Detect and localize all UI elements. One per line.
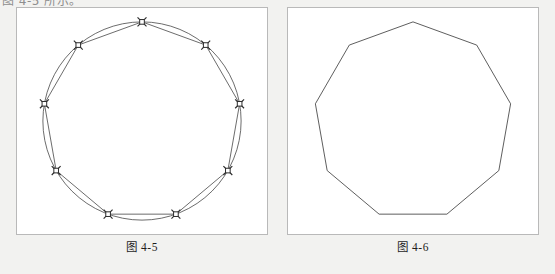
clipped-top-text: 图 4-5 所示。 <box>2 0 82 7</box>
figure-caption-4-6: 图 4-6 <box>397 242 429 254</box>
nonagon-group <box>315 22 510 214</box>
vertex-marker-icon <box>223 166 232 175</box>
figure-block-4-5: 图 4-5 <box>8 7 276 254</box>
vertex-marker-icon <box>52 166 61 175</box>
figure-block-4-6: 图 4-6 <box>279 7 547 254</box>
figure-caption-4-5: 图 4-5 <box>126 242 158 254</box>
figure-panel-4-6 <box>287 7 539 235</box>
vertex-marker-icon <box>201 41 210 50</box>
vertex-marker-icon <box>235 99 244 108</box>
figure-4-5-drawing <box>17 8 267 234</box>
vertex-marker-icon <box>74 41 83 50</box>
vertex-marker-icon <box>40 99 49 108</box>
clipped-top-text-strip: 图 4-5 所示。 <box>0 0 555 7</box>
circumscribed-circle <box>43 22 241 220</box>
figures-row: 图 4-5 图 4-6 <box>0 7 555 274</box>
polygon-9-sides <box>315 22 510 214</box>
figure-4-6-drawing <box>288 8 538 234</box>
circle-and-nonagon-group <box>40 17 244 220</box>
polygon-9-sides <box>44 22 239 214</box>
figure-panel-4-5 <box>16 7 268 235</box>
